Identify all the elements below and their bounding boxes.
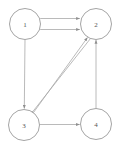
graph-node-4: 4 (81, 109, 112, 140)
graph-edge-3-to-2 (34, 38, 88, 113)
node-label-2: 2 (94, 21, 98, 29)
node-label-1: 1 (23, 21, 27, 29)
graph-node-1: 1 (10, 9, 41, 40)
node-label-3: 3 (22, 122, 26, 130)
graph-edge-1-to-3 (24, 40, 25, 109)
node-label-4: 4 (94, 121, 98, 129)
graph-node-3: 3 (9, 110, 40, 141)
graph-canvas: 1234 (0, 0, 119, 146)
graph-node-2: 2 (81, 9, 112, 40)
graph-edge-2-to-3 (31, 39, 91, 115)
directed-graph-figure: 1234 (0, 0, 119, 146)
